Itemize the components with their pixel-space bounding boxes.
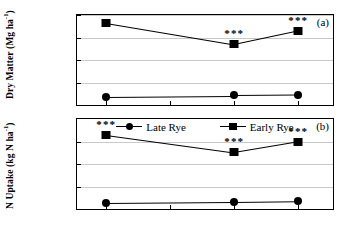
panel-a-dry-matter: 02468********* (a) bbox=[76, 14, 334, 106]
legend: Late Rye Early Rye bbox=[76, 118, 334, 135]
data-point-square bbox=[294, 138, 303, 146]
legend-item-early-rye: Early Rye bbox=[220, 121, 294, 133]
gridline bbox=[77, 38, 333, 39]
x-tick bbox=[170, 205, 171, 209]
significance-stars: *** bbox=[224, 136, 244, 147]
legend-label-early-rye: Early Rye bbox=[250, 121, 294, 133]
x-tick bbox=[234, 101, 235, 105]
data-point-square bbox=[230, 148, 239, 156]
legend-line-early-rye bbox=[220, 126, 246, 127]
y-axis-title-a-close: ) bbox=[5, 11, 15, 14]
y-axis-title-b-text: N Uptake (kg N ha bbox=[5, 132, 15, 210]
figure: Dry Matter (Mg ha-1) N Uptake (kg N ha-1… bbox=[0, 0, 362, 237]
significance-stars: *** bbox=[288, 15, 308, 25]
y-tick bbox=[77, 83, 81, 84]
legend-item-late-rye: Late Rye bbox=[116, 121, 186, 133]
y-axis-title-panel-a: Dry Matter (Mg ha-1) bbox=[2, 6, 15, 104]
y-axis-title-b-close: ) bbox=[5, 123, 15, 126]
series-line-late-rye bbox=[234, 95, 298, 97]
data-point-circle bbox=[230, 198, 238, 206]
series-line-early-rye bbox=[106, 135, 234, 154]
series-line-early-rye bbox=[106, 23, 234, 46]
series-line-late-rye bbox=[106, 202, 234, 204]
x-tick bbox=[170, 101, 171, 105]
data-point-circle bbox=[102, 93, 110, 101]
data-point-circle bbox=[230, 91, 238, 99]
series-line-late-rye bbox=[106, 95, 234, 97]
y-tick bbox=[77, 142, 81, 143]
gridline bbox=[77, 164, 333, 165]
plot-area-a: 02468********* bbox=[77, 15, 333, 105]
significance-stars: *** bbox=[96, 15, 116, 17]
gridline bbox=[77, 187, 333, 188]
legend-label-late-rye: Late Rye bbox=[146, 121, 186, 133]
y-axis-title-b-sup: -1 bbox=[2, 126, 9, 132]
gridline bbox=[77, 60, 333, 61]
y-tick bbox=[77, 15, 81, 16]
gridline bbox=[77, 83, 333, 84]
x-tick bbox=[298, 101, 299, 105]
legend-line-late-rye bbox=[116, 126, 142, 127]
panel-label-a: (a) bbox=[317, 17, 329, 28]
x-tick bbox=[106, 101, 107, 105]
data-point-square bbox=[230, 40, 239, 48]
square-marker-icon bbox=[229, 123, 238, 131]
data-point-circle bbox=[102, 199, 110, 207]
significance-stars: *** bbox=[224, 28, 244, 39]
y-tick bbox=[77, 164, 81, 165]
data-point-square bbox=[102, 19, 111, 27]
circle-marker-icon bbox=[126, 123, 134, 131]
series-line-late-rye bbox=[234, 201, 298, 203]
y-tick bbox=[77, 187, 81, 188]
y-axis-title-a-sup: -1 bbox=[2, 14, 9, 20]
y-tick bbox=[77, 60, 81, 61]
y-axis-title-a-text: Dry Matter (Mg ha bbox=[5, 20, 15, 100]
data-point-square bbox=[294, 27, 303, 35]
x-tick bbox=[298, 205, 299, 209]
data-point-circle bbox=[294, 91, 302, 99]
y-tick bbox=[77, 38, 81, 39]
data-point-circle bbox=[294, 197, 302, 205]
y-axis-title-panel-b: N Uptake (kg N ha-1) bbox=[2, 118, 15, 214]
